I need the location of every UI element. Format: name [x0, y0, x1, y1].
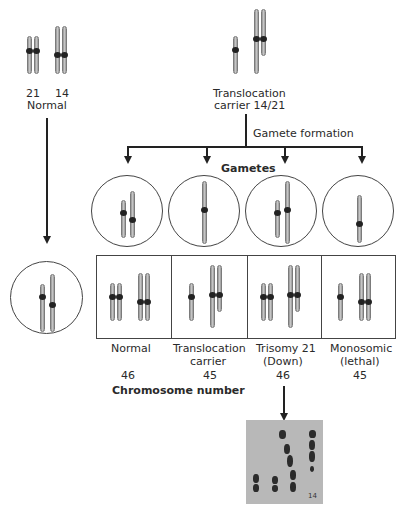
zygote-box-normal	[96, 255, 172, 339]
normal-arrow-line	[46, 118, 48, 238]
zygote-box-trisomy	[247, 255, 322, 339]
zygote-number-carrier: 45	[203, 370, 217, 382]
karyotype-arrow-line	[283, 386, 285, 416]
zygote-number-trisomy: 46	[276, 370, 290, 382]
zygote-number-monosomic: 45	[353, 370, 367, 382]
gamete-4	[322, 175, 394, 247]
gamete-2	[168, 175, 240, 247]
karyotype-photo: 14	[246, 420, 323, 504]
zygote-label-normal: Normal	[111, 343, 151, 355]
zygote-label-carrier-2: carrier	[190, 356, 226, 368]
gametes-heading: Gametes	[221, 163, 276, 175]
zygote-box-monosomic	[321, 255, 396, 339]
normal-parent-label: Normal	[27, 100, 67, 112]
zygote-label-trisomy-1: Trisomy 21	[256, 343, 316, 355]
branch-arrow-2	[203, 156, 211, 164]
zygote-label-monosomic-1: Monosomic	[330, 343, 392, 355]
carrier-parent-label-2: carrier 14/21	[214, 100, 285, 112]
branch-arrow-4	[358, 156, 366, 164]
zygote-number-normal: 46	[121, 370, 135, 382]
normal-arrow-head	[43, 236, 51, 244]
branch-arrow-1	[124, 156, 132, 164]
zygote-box-carrier	[171, 255, 248, 339]
zygote-label-carrier-1: Translocation	[173, 343, 246, 355]
gamete-1	[91, 175, 163, 247]
gamete-3	[245, 175, 317, 247]
karyotype-label: 14	[308, 490, 317, 502]
zygote-label-trisomy-2: (Down)	[263, 356, 303, 368]
zygote-label-monosomic-2: (lethal)	[340, 356, 380, 368]
chromosome-number-heading: Chromosome number	[112, 385, 245, 397]
gamete-formation-label: Gamete formation	[253, 128, 354, 140]
branch-arrow-3	[281, 156, 289, 164]
normal-gamete	[10, 261, 83, 334]
gamete-branch-line	[127, 146, 362, 148]
carrier-stem-line	[245, 114, 247, 147]
